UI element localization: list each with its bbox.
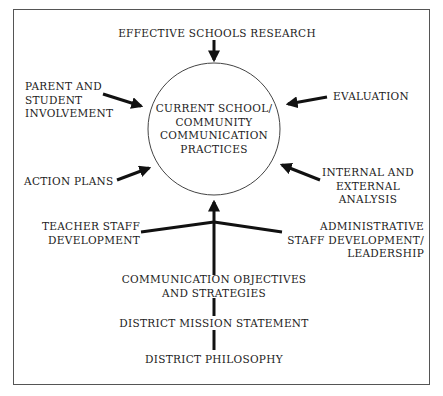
label-district-mission-statement: DISTRICT MISSION STATEMENT [104, 317, 324, 331]
arrow-upper-right [288, 97, 327, 104]
branch-left [141, 222, 214, 232]
label-communication-objectives: COMMUNICATION OBJECTIVES AND STRATEGIES [114, 273, 314, 300]
arrow-lower-right [282, 165, 320, 180]
label-teacher-staff-development: TEACHER STAFF DEVELOPMENT [30, 220, 140, 247]
label-internal-external-analysis-text: INTERNAL AND EXTERNAL ANALYSIS [318, 166, 418, 207]
label-effective-schools-research: EFFECTIVE SCHOOLS RESEARCH [117, 27, 317, 41]
label-district-philosophy: DISTRICT PHILOSOPHY [114, 353, 314, 367]
label-center-practices: CURRENT SCHOOL/ COMMUNITY COMMUNICATION … [148, 102, 280, 156]
label-parent-student-involvement: PARENT AND STUDENT INVOLVEMENT [25, 80, 115, 121]
label-evaluation: EVALUATION [333, 90, 423, 104]
label-action-plans: ACTION PLANS [24, 175, 124, 189]
branch-right [214, 222, 282, 232]
label-administrative-staff-development: ADMINISTRATIVE STAFF DEVELOPMENT/ LEADER… [284, 220, 424, 261]
